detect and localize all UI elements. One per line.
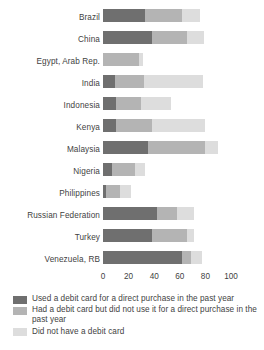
category-label: Brazil <box>79 13 100 22</box>
category-label: Russian Federation <box>27 211 100 220</box>
category-label: China <box>78 35 100 44</box>
x-axis-tick-label: 60 <box>175 272 184 281</box>
bar-segment <box>205 141 218 154</box>
bar-row: Russian Federation <box>0 204 264 226</box>
stacked-bar <box>103 97 171 110</box>
bar-segment <box>152 119 206 132</box>
x-axis: 020406080100 <box>0 272 264 288</box>
legend-item[interactable]: Used a debit card for a direct purchase … <box>13 294 264 304</box>
stacked-bar <box>103 75 203 88</box>
bar-segment <box>103 229 152 242</box>
category-label: Malaysia <box>67 145 100 154</box>
stacked-bar <box>103 163 145 176</box>
x-axis-tick-label: 80 <box>201 272 210 281</box>
category-label: Turkey <box>75 233 100 242</box>
bar-segment <box>187 229 193 242</box>
bar-row: Kenya <box>0 116 264 138</box>
bar-row: Brazil <box>0 6 264 28</box>
x-axis-tick-label: 20 <box>124 272 133 281</box>
bar-segment <box>103 207 157 220</box>
stacked-bar <box>103 185 131 198</box>
bar-segment <box>139 53 143 66</box>
bar-row: Venezuela, RB <box>0 248 264 270</box>
bar-segment <box>135 163 145 176</box>
stacked-bar <box>103 53 143 66</box>
bar-row: Egypt, Arab Rep. <box>0 50 264 72</box>
category-label: Philippines <box>59 189 100 198</box>
bar-segment <box>152 31 188 44</box>
bar-segment <box>116 97 142 110</box>
legend-swatch-used-icon <box>13 296 27 304</box>
legend-item[interactable]: Did not have a debit card <box>13 327 264 337</box>
bar-segment <box>182 251 191 264</box>
legend-item[interactable]: Had a debit card but did not use it for … <box>13 305 264 325</box>
x-axis-tick-label: 0 <box>101 272 106 281</box>
bar-segment <box>103 251 182 264</box>
bar-segment <box>115 75 144 88</box>
bar-segment <box>148 141 206 154</box>
x-axis-tick-label: 40 <box>150 272 159 281</box>
plot-area: BrazilChinaEgypt, Arab Rep.IndiaIndonesi… <box>0 6 264 268</box>
bar-segment <box>177 207 194 220</box>
legend-label: Did not have a debit card <box>32 327 124 337</box>
bar-segment <box>144 75 203 88</box>
bar-segment <box>103 75 115 88</box>
legend-label: Had a debit card but did not use it for … <box>32 305 264 325</box>
bar-row: Turkey <box>0 226 264 248</box>
bar-segment <box>112 163 135 176</box>
bar-segment <box>103 31 152 44</box>
bar-segment <box>103 53 139 66</box>
legend-swatch-had-icon <box>13 307 27 315</box>
bar-segment <box>103 163 112 176</box>
legend-swatch-none-icon <box>13 328 27 336</box>
bar-row: India <box>0 72 264 94</box>
stacked-bar <box>103 207 194 220</box>
bar-row: China <box>0 28 264 50</box>
category-label: Nigeria <box>73 167 100 176</box>
x-axis-tick-label: 100 <box>224 272 238 281</box>
bar-segment <box>187 31 204 44</box>
bar-segment <box>145 9 182 22</box>
bar-row: Philippines <box>0 182 264 204</box>
legend-label: Used a debit card for a direct purchase … <box>32 294 234 304</box>
stacked-bar <box>103 251 202 264</box>
bar-segment <box>103 9 145 22</box>
bar-segment <box>141 97 170 110</box>
category-label: Egypt, Arab Rep. <box>37 57 101 66</box>
bar-segment <box>182 9 200 22</box>
bar-segment <box>116 119 152 132</box>
bar-row: Indonesia <box>0 94 264 116</box>
bar-row: Malaysia <box>0 138 264 160</box>
bar-segment <box>191 251 201 264</box>
chart-legend: Used a debit card for a direct purchase … <box>13 294 264 338</box>
stacked-bar <box>103 31 204 44</box>
bar-segment <box>103 141 148 154</box>
stacked-bar <box>103 141 218 154</box>
bar-segment <box>103 119 116 132</box>
bar-segment <box>152 229 188 242</box>
stacked-bar <box>103 119 205 132</box>
category-label: Kenya <box>76 123 100 132</box>
stacked-bar-chart: BrazilChinaEgypt, Arab Rep.IndiaIndonesi… <box>0 0 264 350</box>
bar-segment <box>103 97 116 110</box>
category-label: Indonesia <box>64 101 100 110</box>
bar-segment <box>157 207 177 220</box>
stacked-bar <box>103 229 194 242</box>
category-label: India <box>82 79 100 88</box>
bar-row: Nigeria <box>0 160 264 182</box>
bar-segment <box>106 185 120 198</box>
stacked-bar <box>103 9 200 22</box>
bar-segment <box>120 185 132 198</box>
category-label: Venezuela, RB <box>45 255 100 264</box>
